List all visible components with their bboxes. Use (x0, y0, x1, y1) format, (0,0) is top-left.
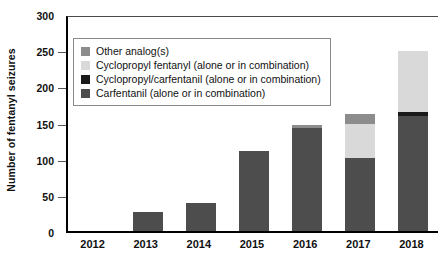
chart-legend: Other analog(s)Cyclopropyl fentanyl (alo… (73, 38, 331, 106)
stacked-bar-chart: Number of fentanyl seizures 050100150200… (0, 0, 446, 269)
y-axis-tick-label: 150 (20, 119, 54, 131)
x-axis-tick-label: 2014 (172, 238, 226, 250)
bar-group (292, 125, 322, 231)
bar-segment (345, 158, 375, 231)
legend-item-label: Cyclopropyl fentanyl (alone or in combin… (96, 59, 309, 71)
bar-group (398, 51, 428, 231)
bar-segment (186, 203, 216, 231)
x-axis-tick-label: 2018 (384, 238, 438, 250)
x-axis-tick-label: 2017 (331, 238, 385, 250)
legend-item-label: Cyclopropyl/carfentanil (alone or in com… (96, 73, 321, 85)
bar-segment (292, 128, 322, 231)
legend-swatch-icon (81, 61, 90, 70)
x-axis-tick-label: 2013 (119, 238, 173, 250)
bar-segment (398, 51, 428, 112)
legend-item: Carfentanil (alone or in combination) (81, 86, 321, 100)
bar-segment (345, 124, 375, 158)
legend-item-label: Carfentanil (alone or in combination) (96, 87, 265, 99)
x-axis-tick-label: 2015 (225, 238, 279, 250)
x-axis-tick-label: 2016 (278, 238, 332, 250)
y-axis-tick (58, 161, 66, 162)
y-axis-title-label: Number of fentanyl seizures (5, 48, 17, 191)
legend-swatch-icon (81, 75, 90, 84)
bar-segment (398, 116, 428, 231)
bar-segment (345, 114, 375, 124)
bar-group (133, 212, 163, 231)
legend-swatch-icon (81, 89, 90, 98)
y-axis-tick-label: 100 (20, 155, 54, 167)
y-axis-tick (58, 197, 66, 198)
y-axis-tick-label: 0 (20, 227, 54, 239)
y-axis-tick (58, 52, 66, 53)
legend-item: Cyclopropyl/carfentanil (alone or in com… (81, 72, 321, 86)
y-axis-tick-label: 300 (20, 10, 54, 22)
legend-swatch-icon (81, 47, 90, 56)
y-axis-tick-label: 50 (20, 191, 54, 203)
y-axis-tick (58, 125, 66, 126)
y-axis-tick-label: 200 (20, 82, 54, 94)
y-axis-tick-label: 250 (20, 46, 54, 58)
x-axis-tick-label: 2012 (66, 238, 120, 250)
bar-group (186, 203, 216, 231)
bar-segment (133, 212, 163, 231)
y-axis-title: Number of fentanyl seizures (0, 0, 22, 240)
legend-item-label: Other analog(s) (96, 45, 169, 57)
bar-group (239, 151, 269, 231)
legend-item: Other analog(s) (81, 44, 321, 58)
y-axis-tick (58, 88, 66, 89)
legend-item: Cyclopropyl fentanyl (alone or in combin… (81, 58, 321, 72)
bar-group (345, 114, 375, 231)
bar-segment (239, 151, 269, 231)
